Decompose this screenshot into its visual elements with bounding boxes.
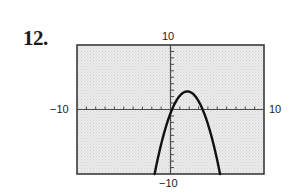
chart-plot: [0, 0, 297, 193]
